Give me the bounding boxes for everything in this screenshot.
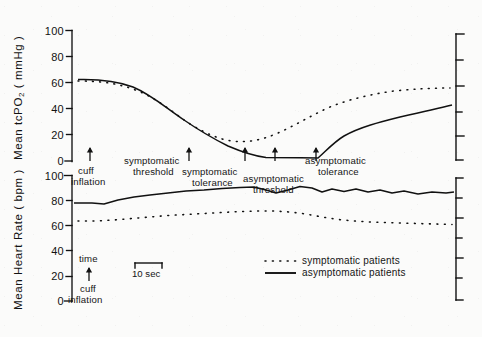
annotation-cuff-inflation-line1: cuff: [78, 165, 94, 176]
annotation-symptomatic-tolerance-line2: tolerance: [192, 177, 233, 188]
top-panel-right-axis: [456, 34, 464, 160]
annotation-asymptomatic-threshold-line1: asymptomatic: [243, 173, 304, 184]
hr-symptomatic-curve: [78, 211, 452, 225]
legend-item-symptomatic-label: symptomatic patients: [302, 255, 400, 266]
bottom-panel-left-axis: [65, 176, 73, 302]
annotation-symptomatic-threshold-line2: threshold: [133, 166, 174, 177]
event-arrow-symptomatic-tolerance: [242, 147, 248, 161]
bottom-panel-right-axis: [456, 178, 463, 300]
annotation-time-label: time: [79, 253, 98, 264]
annotation-time-cuff-line1: cuff: [80, 283, 96, 294]
event-arrow-symptomatic-threshold: [186, 147, 192, 161]
annotation-asymptomatic-tolerance-line2: tolerance: [318, 166, 359, 177]
event-arrow-asymptomatic-threshold: [272, 147, 278, 161]
tcpo2-asymptomatic-curve: [78, 79, 452, 158]
top-panel-left-axis: [65, 31, 72, 162]
annotation-cuff-inflation-line2: inflation: [71, 176, 105, 187]
plot-graphics: [0, 0, 482, 337]
annotation-asymptomatic-threshold-line2: threshold: [253, 184, 294, 195]
event-arrow-cuff-inflation: [87, 147, 93, 161]
figure-canvas: Mean tcPO2 ( mmHg ) 100 80 60 40 20 0 Me…: [0, 0, 482, 337]
scale-bar-label: 10 sec: [132, 268, 160, 279]
legend-item-asymptomatic-label: asymptomatic patients: [302, 267, 406, 278]
annotation-time-cuff-line2: inflation: [68, 294, 102, 305]
annotation-symptomatic-threshold-line1: symptomatic: [124, 155, 180, 166]
annotation-asymptomatic-tolerance-line1: asymptomatic: [305, 155, 366, 166]
tcpo2-symptomatic-curve: [78, 81, 450, 142]
time-cuff-inflation-arrow: [86, 267, 92, 281]
annotation-symptomatic-tolerance-line1: symptomatic: [182, 166, 238, 177]
